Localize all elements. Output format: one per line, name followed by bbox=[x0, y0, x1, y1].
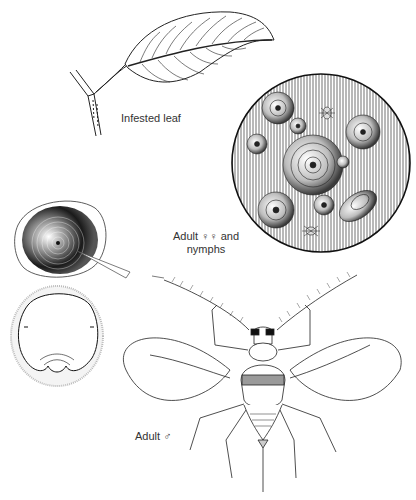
label-adult-male: Adult ♂ bbox=[135, 430, 171, 443]
scale-cover-drawing bbox=[15, 201, 164, 278]
label-adult-females-line1: Adult ♀♀ and bbox=[160, 230, 252, 243]
adult-male-drawing bbox=[123, 272, 401, 492]
illustration-plate: Infested leaf Adult ♀♀ and nymphs Adult … bbox=[0, 0, 416, 500]
magnified-leaf-surface bbox=[232, 74, 410, 252]
label-adult-females-line2: nymphs bbox=[160, 243, 252, 256]
label-infested-leaf: Infested leaf bbox=[121, 112, 181, 125]
scale-underside-drawing bbox=[11, 286, 103, 386]
label-adult-females-and-nymphs: Adult ♀♀ and nymphs bbox=[160, 230, 252, 256]
